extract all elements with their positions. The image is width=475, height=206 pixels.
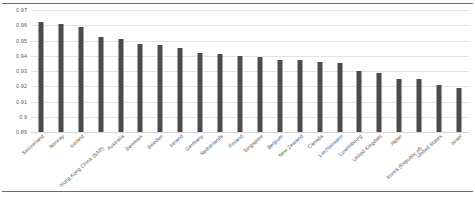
y-axis-tick-label: 0.94 <box>16 53 27 59</box>
bar[interactable] <box>58 24 63 132</box>
y-axis-tick-label: 0.95 <box>16 38 27 44</box>
x-axis-tick-label: Switzerland <box>21 133 45 156</box>
y-axis-tick-label: 0.91 <box>16 99 27 105</box>
y-axis-tick-label: 0.96 <box>16 22 27 28</box>
y-axis-tick-label: 0.93 <box>16 68 27 74</box>
bar-slot <box>330 10 350 132</box>
bar-slot <box>131 10 151 132</box>
bar-slot <box>51 10 71 132</box>
bar-slot <box>210 10 230 132</box>
bar-slot <box>31 10 51 132</box>
y-axis-tick-label: 0.89 <box>16 129 27 135</box>
y-axis-tick-label: 0.92 <box>16 83 27 89</box>
bar[interactable] <box>457 88 462 132</box>
bottom-border-rule <box>2 191 473 192</box>
x-label-slot: Israel <box>449 133 469 189</box>
x-label-slot: Ireland <box>170 133 190 189</box>
bar-slot <box>150 10 170 132</box>
bar[interactable] <box>297 60 302 132</box>
x-label-slot: Switzerland <box>31 133 51 189</box>
x-label-slot: Germany <box>190 133 210 189</box>
bar-slot <box>190 10 210 132</box>
x-label-slot: Singapore <box>250 133 270 189</box>
bar-slot <box>310 10 330 132</box>
bar-slot <box>71 10 91 132</box>
bar[interactable] <box>337 63 342 132</box>
bar[interactable] <box>198 53 203 132</box>
bar[interactable] <box>98 37 103 132</box>
x-axis-tick-label: Israel <box>449 133 463 146</box>
bar[interactable] <box>437 85 442 132</box>
bar[interactable] <box>138 44 143 132</box>
bar[interactable] <box>357 71 362 132</box>
bar[interactable] <box>238 56 243 132</box>
bar-slot <box>91 10 111 132</box>
x-label-slot: New Zealand <box>290 133 310 189</box>
bar-slot <box>250 10 270 132</box>
bar-slot <box>290 10 310 132</box>
x-label-slot: Liechtenstein <box>330 133 350 189</box>
x-label-slot: United States <box>429 133 449 189</box>
x-label-slot: Netherlands <box>210 133 230 189</box>
bar-slot <box>389 10 409 132</box>
x-label-slot: Finland <box>230 133 250 189</box>
bar[interactable] <box>417 79 422 132</box>
bar[interactable] <box>118 39 123 132</box>
bar[interactable] <box>218 54 223 132</box>
bar[interactable] <box>158 45 163 132</box>
y-axis-tick-label: 0.9 <box>19 114 27 120</box>
bar[interactable] <box>397 79 402 132</box>
bar[interactable] <box>317 62 322 132</box>
bar-slot <box>170 10 190 132</box>
top-border-rule <box>2 3 473 4</box>
x-label-slot: Australia <box>111 133 131 189</box>
x-label-slot: Luxembourg <box>350 133 370 189</box>
bar-slot <box>369 10 389 132</box>
x-label-slot: Hong Kong China (SAR) <box>91 133 111 189</box>
x-axis-tick-label: Iceland <box>68 133 85 149</box>
bar[interactable] <box>78 27 83 132</box>
bar[interactable] <box>377 73 382 132</box>
x-label-slot: Korea (Republic of) <box>409 133 429 189</box>
bar-slot <box>409 10 429 132</box>
x-label-slot: Sweden <box>150 133 170 189</box>
y-axis-tick-label: 0.97 <box>16 7 27 13</box>
bar[interactable] <box>257 57 262 132</box>
bar-slot <box>350 10 370 132</box>
x-axis-tick-label: Ireland <box>168 133 184 148</box>
bar-chart-figure: 0.970.960.950.940.930.920.910.90.89 Swit… <box>0 0 475 206</box>
x-label-slot: Canada <box>310 133 330 189</box>
x-axis-labels: SwitzerlandNorwayIcelandHong Kong China … <box>31 133 469 189</box>
plot-area: 0.970.960.950.940.930.920.910.90.89 <box>31 10 469 132</box>
x-axis-tick-label: Norway <box>48 133 65 149</box>
x-label-slot: Denmark <box>131 133 151 189</box>
bars-layer <box>31 10 469 132</box>
x-label-slot: Belgium <box>270 133 290 189</box>
x-label-slot: United Kingdom <box>369 133 389 189</box>
x-axis-tick-label: Japan <box>389 133 404 147</box>
bar[interactable] <box>277 60 282 132</box>
bar-slot <box>111 10 131 132</box>
bar-slot <box>230 10 250 132</box>
x-axis-tick-label: Finland <box>227 133 244 149</box>
bar[interactable] <box>38 22 43 132</box>
bar-slot <box>449 10 469 132</box>
bar[interactable] <box>178 48 183 132</box>
bar-slot <box>429 10 449 132</box>
bar-slot <box>270 10 290 132</box>
